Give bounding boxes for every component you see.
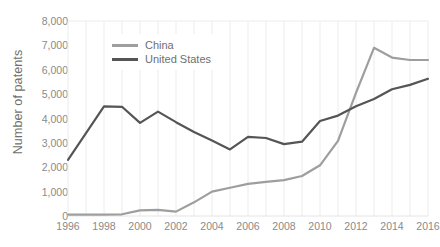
x-tick-label: 2010 (308, 220, 331, 232)
legend-swatch-china (112, 44, 138, 47)
x-tick-label: 2006 (236, 220, 259, 232)
x-tick-label: 2000 (128, 220, 151, 232)
x-tick-label: 1998 (92, 220, 115, 232)
x-tick-label: 1996 (56, 220, 79, 232)
legend-item-united-states[interactable]: United States (112, 52, 211, 66)
x-tick-label: 2002 (164, 220, 187, 232)
x-tick-label: 2014 (380, 220, 403, 232)
x-tick-label: 2004 (200, 220, 223, 232)
x-tick-label: 2012 (344, 220, 367, 232)
legend-item-china[interactable]: China (112, 38, 211, 52)
x-tick-label: 2008 (272, 220, 295, 232)
x-axis-tick-labels: 1996199820002002200420062008201020122014… (0, 220, 436, 238)
bottom-cut-off-text (4, 239, 82, 246)
x-tick-label: 2016 (416, 220, 439, 232)
legend-swatch-united-states (112, 58, 138, 61)
legend: China United States (106, 34, 219, 70)
legend-label-china: China (145, 39, 174, 51)
legend-label-united-states: United States (145, 53, 211, 65)
